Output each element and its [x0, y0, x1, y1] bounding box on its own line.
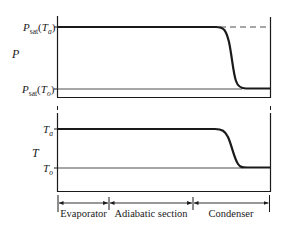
p-lower-label: Psat(To) — [21, 83, 55, 98]
section-label-adiabatic: Adiabatic section — [114, 208, 188, 219]
t-upper-label: Ta — [43, 123, 53, 138]
section-dimensions: Evaporator Adiabatic section Condenser — [58, 195, 270, 219]
temperature-plot: Ta T To — [32, 113, 271, 192]
p-curve — [57, 27, 270, 89]
t-lower-label: To — [43, 162, 53, 177]
t-axis-label: T — [32, 146, 40, 160]
pressure-plot: Psat(Ta) P Psat(To) — [11, 16, 271, 110]
p-upper-label: Psat(Ta) — [22, 21, 56, 36]
p-axis-label: P — [11, 47, 20, 61]
section-label-condenser: Condenser — [209, 208, 254, 219]
section-label-evaporator: Evaporator — [60, 208, 107, 219]
heat-pipe-diagram: Psat(Ta) P Psat(To) Ta T To — [0, 0, 283, 232]
t-curve — [57, 129, 270, 168]
